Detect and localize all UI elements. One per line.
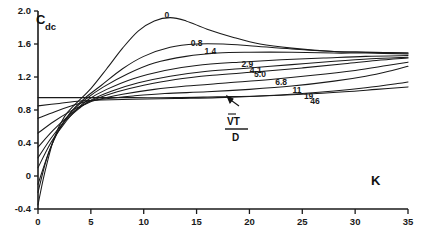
curve-label: 0 xyxy=(165,10,170,20)
x-tick-label: 0 xyxy=(35,216,40,227)
data-curve xyxy=(38,56,408,168)
y-tick-label: 2.0 xyxy=(18,5,31,16)
x-tick-label: 25 xyxy=(297,216,308,227)
chart-figure: -0.400.40.81.21.62.005101520253035 00.81… xyxy=(0,0,424,247)
x-tick-label: 15 xyxy=(191,216,202,227)
x-axis-title: K xyxy=(371,173,381,188)
curve-label: 0.8 xyxy=(191,38,203,48)
parameter-denominator: D xyxy=(232,132,239,143)
parameter-annotation: VT D xyxy=(225,96,248,143)
y-axis-title-sub: dc xyxy=(45,21,56,32)
y-tick-label: 1.2 xyxy=(18,71,31,82)
curve-label: 46 xyxy=(310,96,320,106)
data-curve xyxy=(38,18,408,205)
x-tick-label: 20 xyxy=(244,216,255,227)
x-tick-label: 35 xyxy=(403,216,414,227)
y-axis-title: C dc xyxy=(36,12,56,32)
y-tick-label: 1.6 xyxy=(18,38,31,49)
x-tick-label: 5 xyxy=(88,216,94,227)
chart-canvas: -0.400.40.81.21.62.005101520253035 00.81… xyxy=(0,0,424,247)
data-curve xyxy=(38,52,408,184)
y-tick-label: 0.4 xyxy=(18,137,32,148)
y-tick-label: 0.8 xyxy=(18,104,31,115)
curve-label: 11 xyxy=(293,85,302,95)
data-curve xyxy=(38,57,408,158)
y-tick-label: 0 xyxy=(26,170,31,181)
curve-label: 1.4 xyxy=(204,46,216,56)
data-curve xyxy=(38,58,408,147)
curve-labels-group: 00.81.42.94.15.06.8111946 xyxy=(165,10,320,107)
curve-label: 6.8 xyxy=(275,77,287,87)
parameter-numerator: VT xyxy=(227,116,240,127)
axes-group: -0.400.40.81.21.62.005101520253035 xyxy=(15,5,414,227)
y-tick-label: -0.4 xyxy=(15,203,32,214)
data-curve xyxy=(38,44,408,193)
x-tick-label: 10 xyxy=(138,216,149,227)
x-tick-label: 30 xyxy=(350,216,361,227)
curves-group xyxy=(38,18,408,205)
curve-label: 5.0 xyxy=(254,69,266,79)
